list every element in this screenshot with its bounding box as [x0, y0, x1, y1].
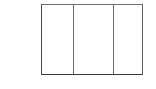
drawing-canvas: [0, 0, 156, 89]
three-column-rectangle: [41, 4, 143, 75]
panel-2: [74, 5, 113, 74]
panel-3: [114, 5, 142, 74]
panel-1: [42, 5, 73, 74]
